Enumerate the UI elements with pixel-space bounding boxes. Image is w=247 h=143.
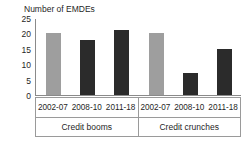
group-label: Credit crunches [139, 118, 241, 136]
x-axis-line [35, 95, 241, 96]
y-tick-label: 20 [22, 30, 31, 39]
group-label: Credit booms [36, 118, 138, 136]
bar [114, 30, 129, 95]
x-tick-label: 2008-10 [172, 98, 206, 117]
x-tick-label-row: 2002-072008-102011-18 [139, 98, 241, 118]
bars-layer [36, 19, 241, 95]
x-tick-label: 2011-18 [206, 98, 240, 117]
x-tick-label: 2011-18 [104, 98, 138, 117]
chart-container: Number of EMDEs 2520151050 2002-072008-1… [0, 0, 247, 143]
bar [149, 33, 164, 95]
bar [46, 33, 61, 95]
y-tick-label: 5 [26, 76, 31, 85]
category-group: 2002-072008-102011-18Credit crunches [138, 98, 241, 136]
x-tick-label: 2002-07 [36, 98, 70, 117]
y-axis-title: Number of EMDEs [24, 4, 95, 14]
x-tick-label: 2008-10 [70, 98, 104, 117]
y-tick-label: 15 [22, 46, 31, 55]
x-tick-label: 2002-07 [139, 98, 173, 117]
bar [80, 40, 95, 95]
plot-area: 2520151050 [35, 19, 241, 96]
category-group: 2002-072008-102011-18Credit booms [36, 98, 138, 136]
y-tick-label: 25 [22, 15, 31, 24]
y-tick-label: 10 [22, 61, 31, 70]
x-tick-label-row: 2002-072008-102011-18 [36, 98, 138, 118]
bar [217, 49, 232, 95]
category-label-table: 2002-072008-102011-18Credit booms2002-07… [35, 97, 241, 137]
y-tick-label: 0 [26, 92, 31, 101]
bar [183, 73, 198, 95]
